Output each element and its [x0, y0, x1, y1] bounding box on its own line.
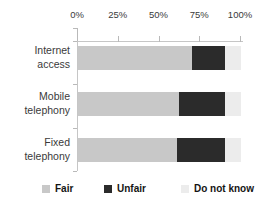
x-axis-zero-tick-cap	[73, 28, 77, 29]
x-axis-tick-label-100: 100%	[228, 9, 252, 20]
x-axis-tick-mark	[240, 36, 241, 42]
y-axis-tick-mark	[73, 84, 77, 85]
bar-segment-do-not-know	[225, 46, 241, 70]
x-axis-line	[77, 41, 243, 42]
x-axis-tick-label-75: 75%	[190, 9, 209, 20]
x-axis-tick-mark	[199, 36, 200, 42]
x-axis-tick-label-50: 50%	[149, 9, 168, 20]
legend-label-unfair: Unfair	[117, 183, 146, 194]
bar-segment-unfair	[177, 138, 224, 162]
legend-item-do-not-know: Do not know	[181, 182, 254, 195]
x-axis-tick-mark	[118, 36, 119, 42]
x-axis-tick-label-0: 0%	[70, 9, 84, 20]
legend-label-do-not-know: Do not know	[194, 183, 254, 194]
category-label-fixed-telephony: Fixed telephony	[6, 136, 70, 163]
legend-swatch-fair	[42, 185, 50, 193]
bar-segment-fair	[78, 92, 179, 116]
x-axis-tick-mark	[77, 28, 78, 42]
legend-item-fair: Fair	[42, 182, 73, 195]
x-axis-tick-mark	[159, 36, 160, 42]
y-axis-tick-mark	[73, 41, 77, 42]
legend-swatch-unfair	[104, 185, 112, 193]
legend-swatch-do-not-know	[181, 185, 189, 193]
category-label-internet-access: Internet access	[6, 44, 70, 71]
bar-segment-do-not-know	[225, 138, 241, 162]
stacked-bar-chart: 0% 25% 50% 75% 100% Internet access Mobi…	[0, 0, 263, 205]
y-axis-tick-mark	[73, 171, 77, 172]
bar-segment-do-not-know	[225, 92, 241, 116]
x-axis-tick-label-25: 25%	[108, 9, 127, 20]
category-label-mobile-telephony: Mobile telephony	[6, 90, 70, 117]
legend-label-fair: Fair	[55, 183, 73, 194]
y-axis-tick-mark	[73, 128, 77, 129]
bar-mobile-telephony	[78, 92, 241, 116]
bar-segment-unfair	[179, 92, 225, 116]
legend-item-unfair: Unfair	[104, 182, 146, 195]
bar-segment-fair	[78, 46, 192, 70]
bar-internet-access	[78, 46, 241, 70]
bar-segment-fair	[78, 138, 177, 162]
bar-segment-unfair	[192, 46, 225, 70]
bar-fixed-telephony	[78, 138, 241, 162]
